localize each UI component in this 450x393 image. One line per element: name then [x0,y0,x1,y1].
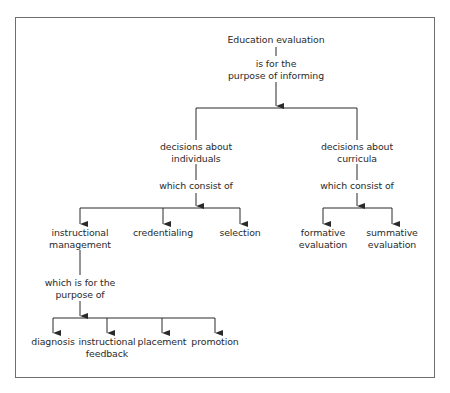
node-label: placement [138,336,187,347]
node-label-line2: individuals [160,153,232,165]
node-label: promotion [191,336,238,347]
connector-label-line1: which is for the [45,277,115,289]
node-summative-evaluation: summative evaluation [366,227,418,250]
connector-label-line1: is for the [228,58,324,70]
node-label: diagnosis [31,336,74,347]
node-label: Education evaluation [228,34,325,45]
node-selection: selection [219,227,260,239]
node-label-line1: instructional [49,227,111,239]
node-label: selection [219,227,260,238]
connector-label-purpose-of-informing: is for the purpose of informing [228,58,324,81]
node-education-evaluation: Education evaluation [228,34,325,46]
node-label-line1: summative [366,227,418,239]
node-label-line2: management [49,239,111,251]
node-credentialing: credentialing [133,227,193,239]
node-label-line2: curricula [321,153,393,165]
connector-lines [0,0,450,393]
node-placement: placement [138,336,187,348]
node-label-line1: formative [299,227,347,239]
node-label-line2: evaluation [366,239,418,251]
node-label-line1: instructional [78,336,135,348]
connector-label-which-consist-of-individuals: which consist of [159,180,233,192]
node-diagnosis: diagnosis [31,336,74,348]
node-label-line2: feedback [78,348,135,360]
connector-label-line2: purpose of informing [228,70,324,82]
node-decisions-about-curricula: decisions about curricula [321,141,393,164]
node-instructional-feedback: instructional feedback [78,336,135,359]
node-promotion: promotion [191,336,238,348]
node-instructional-management: instructional management [49,227,111,250]
node-formative-evaluation: formative evaluation [299,227,347,250]
connector-label-line2: purpose of [45,289,115,301]
node-label: credentialing [133,227,193,238]
node-label-line1: decisions about [321,141,393,153]
connector-label: which consist of [320,180,394,191]
connector-label-which-is-for-the-purpose-of: which is for the purpose of [45,277,115,300]
connector-label: which consist of [159,180,233,191]
node-label-line1: decisions about [160,141,232,153]
node-label-line2: evaluation [299,239,347,251]
node-decisions-about-individuals: decisions about individuals [160,141,232,164]
connector-label-which-consist-of-curricula: which consist of [320,180,394,192]
